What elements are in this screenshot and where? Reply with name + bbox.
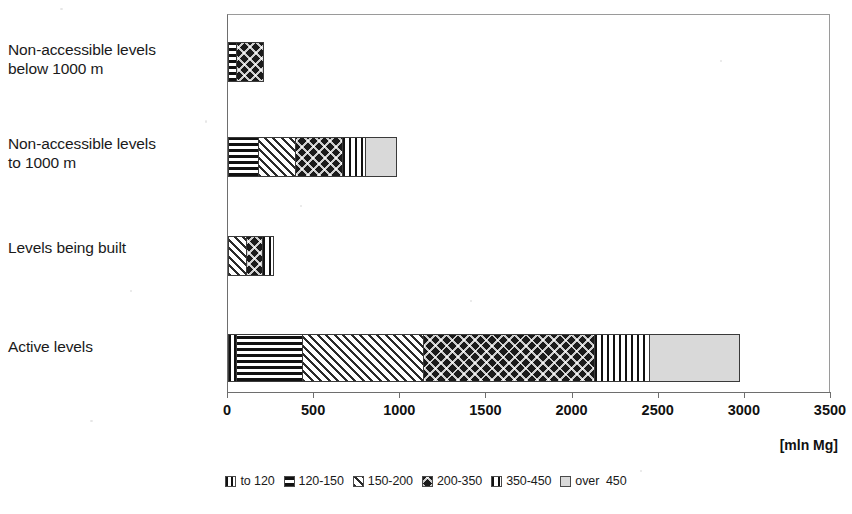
x-axis-tick (485, 392, 486, 398)
legend-item[interactable]: to 120 (225, 474, 274, 488)
x-axis-tick (313, 392, 314, 398)
bar-segment (258, 137, 296, 177)
x-axis-tick-label: 3500 (814, 402, 846, 418)
x-axis-tick-label: 2500 (642, 402, 674, 418)
legend-item-label: 150-200 (368, 474, 413, 488)
bar-segment (236, 334, 303, 382)
x-axis-line (227, 392, 831, 393)
bars-layer (228, 14, 830, 392)
category-label-non-accessible-to-1000: Non-accessible levels to 1000 m (8, 134, 218, 172)
x-axis-tick (744, 392, 745, 398)
x-axis-tick-label: 1500 (469, 402, 501, 418)
legend-swatch-icon (491, 476, 502, 487)
bar-segment (594, 334, 649, 382)
bar-row (228, 137, 397, 177)
x-axis-tick (572, 392, 573, 398)
x-axis-tick-label: 1000 (383, 402, 415, 418)
legend-item-label: 200-350 (437, 474, 482, 488)
legend-item[interactable]: over 450 (560, 474, 626, 488)
legend-item[interactable]: 120-150 (284, 474, 344, 488)
bar-segment (295, 137, 343, 177)
scan-speckle (60, 8, 63, 10)
bar-segment (302, 334, 424, 382)
category-label-line2: to 1000 m (8, 153, 218, 172)
x-axis-tick-label: 2000 (555, 402, 587, 418)
legend-item-label: to 120 (240, 474, 274, 488)
legend-item-label: 120-150 (299, 474, 344, 488)
category-label-line1: Levels being built (8, 238, 218, 257)
legend-swatch-icon (560, 476, 571, 487)
legend-item[interactable]: 150-200 (353, 474, 413, 488)
legend-swatch-icon (225, 476, 236, 487)
x-axis-tick (658, 392, 659, 398)
bar-segment (365, 137, 397, 177)
bar-segment (236, 42, 264, 82)
category-label-line1: Non-accessible levels (8, 134, 218, 153)
category-label-levels-being-built: Levels being built (8, 238, 218, 257)
x-axis-tick (399, 392, 400, 398)
legend-item-label: over 450 (575, 474, 626, 488)
legend-swatch-icon (353, 476, 364, 487)
legend: to 120120-150150-200200-350350-450over 4… (0, 474, 852, 488)
bar-segment (228, 236, 247, 276)
bar-segment (649, 334, 740, 382)
chart-container: Non-accessible levels below 1000 m Non-a… (0, 0, 852, 514)
bar-segment (246, 236, 263, 276)
legend-item[interactable]: 200-350 (422, 474, 482, 488)
category-label-line1: Active levels (8, 337, 218, 356)
bar-row (228, 236, 274, 276)
x-axis-tick-label: 500 (301, 402, 325, 418)
bar-segment (228, 137, 259, 177)
bar-segment (342, 137, 366, 177)
bar-row (228, 334, 740, 382)
category-label-line1: Non-accessible levels (8, 40, 218, 59)
bar-segment (423, 334, 595, 382)
legend-swatch-icon (422, 476, 433, 487)
category-label-non-accessible-below-1000: Non-accessible levels below 1000 m (8, 40, 218, 78)
x-axis-tick-label: 0 (223, 402, 231, 418)
bar-segment (262, 236, 274, 276)
x-axis-tick (830, 392, 831, 398)
scan-speckle (640, 470, 642, 472)
legend-item[interactable]: 350-450 (491, 474, 551, 488)
category-label-active-levels: Active levels (8, 337, 218, 356)
bar-row (228, 42, 264, 82)
scan-speckle (90, 420, 93, 422)
category-label-line2: below 1000 m (8, 59, 218, 78)
x-axis-tick-label: 3000 (728, 402, 760, 418)
legend-item-label: 350-450 (506, 474, 551, 488)
x-axis-unit-label: [mln Mg] (780, 437, 838, 453)
x-axis-tick (227, 392, 228, 398)
legend-swatch-icon (284, 476, 295, 487)
category-axis-labels: Non-accessible levels below 1000 m Non-a… (0, 14, 222, 392)
